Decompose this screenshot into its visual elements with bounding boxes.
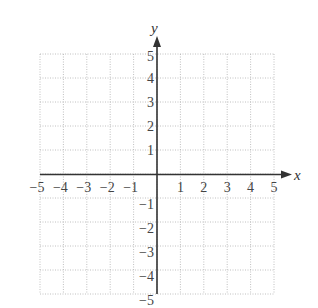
y-tick-label: −2 bbox=[139, 221, 154, 236]
x-tick-label: 2 bbox=[200, 180, 207, 195]
y-tick-label: −5 bbox=[139, 293, 154, 308]
y-tick-label: 5 bbox=[147, 49, 154, 64]
y-tick-label: 1 bbox=[147, 143, 154, 158]
x-axis-arrow-icon bbox=[281, 171, 292, 179]
x-tick-label: −2 bbox=[100, 180, 115, 195]
y-tick-label: −1 bbox=[139, 197, 154, 212]
x-tick-label: 1 bbox=[177, 180, 184, 195]
x-tick-label: 5 bbox=[271, 180, 278, 195]
x-tick-label: −4 bbox=[53, 180, 68, 195]
y-tick-label: 4 bbox=[147, 71, 154, 86]
y-axis-label: y bbox=[149, 20, 158, 36]
y-tick-label: 2 bbox=[147, 119, 154, 134]
y-tick-labels: 54321−1−2−3−4−5 bbox=[139, 49, 154, 308]
x-tick-label: −1 bbox=[123, 180, 138, 195]
x-tick-label: −5 bbox=[30, 180, 45, 195]
y-axis-arrow-icon bbox=[153, 36, 161, 47]
x-tick-label: −3 bbox=[76, 180, 91, 195]
y-tick-label: −3 bbox=[139, 245, 154, 260]
y-tick-label: −4 bbox=[139, 269, 154, 284]
coordinate-plane: x y −5−4−3−2−112345 54321−1−2−3−4−5 bbox=[0, 0, 318, 308]
y-tick-label: 3 bbox=[147, 95, 154, 110]
x-tick-label: 4 bbox=[247, 180, 254, 195]
x-tick-label: 3 bbox=[224, 180, 231, 195]
x-tick-labels: −5−4−3−2−112345 bbox=[30, 180, 278, 195]
x-axis-label: x bbox=[293, 167, 301, 183]
axes bbox=[40, 36, 292, 294]
